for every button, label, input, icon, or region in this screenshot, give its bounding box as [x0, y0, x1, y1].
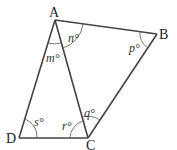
vertex-label-c: C	[86, 138, 95, 150]
angle-label-m: m°	[46, 51, 60, 65]
angle-arc-r	[70, 121, 83, 138]
vertex-label-d: D	[6, 131, 16, 146]
angle-label-p: p°	[128, 41, 140, 55]
angle-label-s: s°	[34, 115, 44, 129]
angle-arc-p	[140, 31, 148, 48]
angle-arc-m	[48, 43, 61, 44]
angle-label-q: q°	[84, 106, 95, 120]
angle-label-n: n°	[68, 31, 79, 45]
angle-label-r: r°	[62, 119, 72, 133]
edge-bc	[88, 34, 157, 138]
vertex-label-a: A	[49, 5, 60, 20]
geometry-diagram: A B C D n° m° p° q° r° s°	[0, 0, 177, 150]
vertex-label-b: B	[159, 27, 168, 42]
